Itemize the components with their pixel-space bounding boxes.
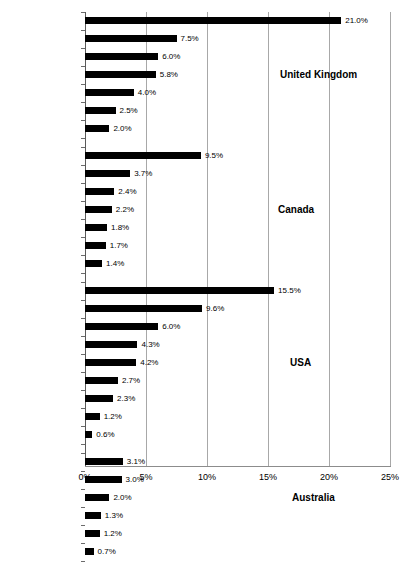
bar-value-label: 0.7% — [94, 543, 116, 561]
y-axis-tick — [81, 138, 85, 139]
bar-value-label: 9.5% — [201, 147, 223, 165]
bar-value-label: 6.0% — [158, 318, 180, 336]
bar-row: Davis15.5% — [85, 282, 390, 300]
bar-value-label: 2.5% — [116, 102, 138, 120]
group-title-canada: Canada — [278, 201, 314, 219]
bar-value-label: 15.5% — [274, 282, 301, 300]
bar — [85, 35, 177, 42]
bar-row: Minneapolis4.3% — [85, 336, 390, 354]
bar-value-label: 5.8% — [156, 66, 178, 84]
bar-row: Sydney0.7% — [85, 543, 390, 561]
bar — [85, 242, 106, 249]
bar — [85, 188, 114, 195]
bar-row: Boulder9.6% — [85, 300, 390, 318]
bar-value-label: 0.6% — [92, 426, 114, 444]
bar-value-label: 2.0% — [109, 489, 131, 507]
bar-value-label: 6.0% — [158, 48, 180, 66]
bar — [85, 152, 201, 159]
group-title-united-kingdom: United Kingdom — [280, 66, 357, 84]
bar — [85, 53, 158, 60]
x-axis-tick-label: 25% — [370, 471, 410, 483]
y-axis-tick — [81, 273, 85, 274]
bar-value-label: 1.8% — [107, 219, 129, 237]
bar-row: Cambridge21.0% — [85, 12, 390, 30]
bar-value-label: 7.5% — [177, 30, 199, 48]
bar-value-label: 2.2% — [112, 201, 134, 219]
y-axis-tick — [81, 444, 85, 445]
bar-row: Melbourne1.3% — [85, 507, 390, 525]
x-axis-tick-label: 15% — [248, 471, 288, 483]
bar-row: Oxfordshire7.5% — [85, 30, 390, 48]
bar-row: Northampton2.5% — [85, 102, 390, 120]
bar — [85, 395, 113, 402]
bar-row: Petersborough6.0% — [85, 48, 390, 66]
x-axis-tick-label: 5% — [126, 471, 166, 483]
bar — [85, 224, 107, 231]
bar-row: Chicago1.2% — [85, 408, 390, 426]
bar — [85, 260, 102, 267]
bar — [85, 431, 92, 438]
bar-row: Canberra3.1% — [85, 453, 390, 471]
bar — [85, 287, 274, 294]
bar-row: Vancouver3.7% — [85, 165, 390, 183]
bar-value-label: 4.2% — [136, 354, 158, 372]
gridline-25pct — [390, 12, 391, 466]
bar — [85, 341, 137, 348]
bar-row: Washington2.3% — [85, 390, 390, 408]
bar — [85, 512, 101, 519]
bar-value-label: 3.1% — [123, 453, 145, 471]
bar — [85, 548, 94, 555]
bar-row: San Francisco2.7% — [85, 372, 390, 390]
bar-row: Adelaide1.2% — [85, 525, 390, 543]
bar-value-label: 2.4% — [114, 183, 136, 201]
bar — [85, 71, 156, 78]
bar-value-label: 1.2% — [100, 408, 122, 426]
bar-row: Ottawa2.2% — [85, 201, 390, 219]
bar-row: Montreal2.4% — [85, 183, 390, 201]
bar — [85, 530, 100, 537]
bar-value-label: 1.7% — [106, 237, 128, 255]
bar — [85, 170, 130, 177]
bar — [85, 359, 136, 366]
bar-value-label: 9.6% — [202, 300, 224, 318]
bar-value-label: 3.7% — [130, 165, 152, 183]
bar — [85, 323, 158, 330]
bar-row: Portland6.0% — [85, 318, 390, 336]
bar-row: Exeter4.0% — [85, 84, 390, 102]
bar — [85, 17, 341, 24]
bar-row: London2.0% — [85, 120, 390, 138]
bar-row: New York0.6% — [85, 426, 390, 444]
x-axis-tick-label: 10% — [187, 471, 227, 483]
bar-value-label: 2.0% — [109, 120, 131, 138]
bar — [85, 206, 112, 213]
bar-row: Calgary1.4% — [85, 255, 390, 273]
bar — [85, 125, 109, 132]
bar-value-label: 2.7% — [118, 372, 140, 390]
bar — [85, 107, 116, 114]
bar-value-label: 21.0% — [341, 12, 368, 30]
bar-value-label: 4.0% — [134, 84, 156, 102]
bar — [85, 377, 118, 384]
bar-value-label: 1.3% — [101, 507, 123, 525]
bar — [85, 89, 134, 96]
bar-row: Madison4.2% — [85, 354, 390, 372]
bar — [85, 494, 109, 501]
bar — [85, 413, 100, 420]
bar-row: Winnipeg1.8% — [85, 219, 390, 237]
group-title-australia: Australia — [292, 489, 335, 507]
group-title-usa: USA — [290, 354, 311, 372]
x-axis-tick-label: 20% — [309, 471, 349, 483]
bar-row: Toronto1.7% — [85, 237, 390, 255]
bar-row: Victoria9.5% — [85, 147, 390, 165]
bar-value-label: 4.3% — [137, 336, 159, 354]
bar-value-label: 1.2% — [100, 525, 122, 543]
bar-value-label: 1.4% — [102, 255, 124, 273]
x-axis-tick-label: 0% — [65, 471, 105, 483]
bar-row: Brisbane2.0% — [85, 489, 390, 507]
bar — [85, 458, 123, 465]
bar-value-label: 2.3% — [113, 390, 135, 408]
bar — [85, 305, 202, 312]
